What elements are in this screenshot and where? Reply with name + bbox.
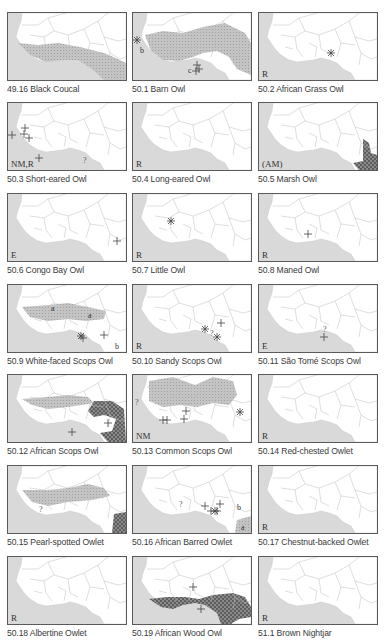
distribution-map-50.18: R 50.18 Albertine Owlet	[7, 556, 127, 642]
map-caption: 50.4 Long-eared Owl	[132, 174, 210, 184]
status-code: R	[262, 613, 268, 623]
uncertain-record-icon: ?	[210, 329, 214, 338]
distribution-map-50.13: ? NM 50.13 Common Scops Owl	[132, 374, 252, 464]
map-frame: R	[7, 556, 127, 625]
range-area-dark	[112, 512, 126, 533]
map-frame: ?ba	[132, 465, 252, 534]
map-frame: aab	[7, 284, 127, 353]
land-outline	[141, 466, 251, 533]
uncertain-record-icon: ?	[323, 325, 327, 334]
map-graphic	[133, 103, 251, 170]
map-graphic	[8, 375, 126, 442]
record-star-icon	[167, 217, 175, 225]
subspecies-label: b	[115, 342, 119, 351]
map-graphic	[8, 13, 126, 80]
land-outline	[267, 13, 377, 80]
distribution-map-50.10: ? R 50.10 Sandy Scops Owl	[132, 284, 252, 374]
record-plus-icon	[193, 61, 201, 69]
map-graphic: aab	[8, 285, 126, 352]
status-code: R	[136, 341, 142, 351]
map-caption: 50.8 Maned Owl	[258, 265, 319, 275]
map-graphic: ?	[133, 285, 251, 352]
status-code: R	[136, 250, 142, 260]
map-caption: 50.15 Pearl-spotted Owlet	[7, 537, 104, 547]
map-frame: R	[258, 465, 378, 534]
map-frame: E	[7, 193, 127, 262]
map-graphic: ?	[8, 466, 126, 533]
map-frame	[132, 556, 252, 625]
land-outline	[267, 557, 377, 624]
map-caption: 50.16 African Barred Owlet	[132, 537, 232, 547]
map-caption: 50.2 African Grass Owl	[258, 84, 344, 94]
record-star-icon	[236, 408, 244, 416]
subspecies-label: a	[88, 311, 92, 320]
distribution-map-50.6: E 50.6 Congo Bay Owl	[7, 193, 127, 283]
map-caption: 50.6 Congo Bay Owl	[7, 265, 84, 275]
map-caption: 50.9 White-faced Scops Owl	[7, 356, 113, 366]
distribution-map-50.1: bc 50.1 Barn Owl	[132, 12, 252, 102]
land-outline	[141, 194, 251, 261]
distribution-map-50.4: R 50.4 Long-eared Owl	[132, 102, 252, 192]
record-star-icon	[77, 332, 85, 340]
land-outline	[267, 466, 377, 533]
map-caption: 50.10 Sandy Scops Owl	[132, 356, 222, 366]
distribution-map-50.16: ?ba 50.16 African Barred Owlet	[132, 465, 252, 555]
map-frame: R	[132, 193, 252, 262]
status-code: E	[262, 341, 268, 351]
map-frame: ?	[7, 465, 127, 534]
record-star-icon	[327, 49, 335, 57]
map-graphic	[259, 13, 377, 80]
distribution-map-50.7: R 50.7 Little Owl	[132, 193, 252, 283]
distribution-map-50.14: R 50.14 Red-chested Owlet	[258, 374, 378, 464]
map-caption: 50.13 Common Scops Owl	[132, 446, 232, 456]
map-frame: (AM)	[258, 102, 378, 171]
subspecies-label: a	[241, 523, 245, 532]
distribution-map-51.1: R 51.1 Brown Nightjar	[258, 556, 378, 642]
status-code: R	[262, 431, 268, 441]
land-outline	[16, 194, 126, 261]
status-code: NM,R	[11, 159, 34, 169]
record-plus-icon	[68, 428, 76, 436]
land-outline	[141, 285, 251, 352]
uncertain-record-icon: ?	[135, 398, 139, 407]
distribution-map-50.9: aab 50.9 White-faced Scops Owl	[7, 284, 127, 374]
uncertain-record-icon: ?	[39, 505, 43, 514]
distribution-map-50.12: 50.12 African Scops Owl	[7, 374, 127, 464]
map-frame: ? E	[258, 284, 378, 353]
map-graphic	[259, 375, 377, 442]
land-outline	[267, 285, 377, 352]
record-star-icon	[211, 507, 219, 515]
distribution-map-50.3: ? NM,R 50.3 Short-eared Owl	[7, 102, 127, 192]
map-frame: R	[258, 12, 378, 81]
map-caption: 50.12 African Scops Owl	[7, 446, 98, 456]
record-plus-icon	[197, 605, 205, 613]
map-graphic	[133, 557, 251, 624]
map-caption: 50.18 Albertine Owlet	[7, 628, 87, 638]
status-code: R	[11, 613, 17, 623]
map-frame: R	[258, 556, 378, 625]
status-code: E	[11, 250, 17, 260]
map-graphic: ?ba	[133, 466, 251, 533]
status-code: R	[136, 159, 142, 169]
map-graphic	[8, 194, 126, 261]
record-star-icon	[213, 333, 221, 341]
map-caption: 50.3 Short-eared Owl	[7, 174, 87, 184]
subspecies-label: b	[140, 46, 144, 55]
subspecies-label: c	[188, 66, 192, 75]
status-code: (AM)	[262, 159, 283, 169]
distribution-map-50.15: ? 50.15 Pearl-spotted Owlet	[7, 465, 127, 555]
map-frame: bc	[132, 12, 252, 81]
map-frame: ? NM	[132, 374, 252, 443]
map-graphic: bc	[133, 13, 251, 80]
status-code: R	[262, 69, 268, 79]
distribution-map-49.16: 49.16 Black Coucal	[7, 12, 127, 102]
map-caption: 50.5 Marsh Owl	[258, 174, 317, 184]
map-graphic	[8, 557, 126, 624]
record-plus-icon	[320, 333, 328, 341]
land-outline	[267, 375, 377, 442]
map-graphic: ?	[133, 375, 251, 442]
map-graphic	[259, 194, 377, 261]
map-frame: R	[132, 102, 252, 171]
land-outline	[16, 557, 126, 624]
map-graphic	[259, 466, 377, 533]
